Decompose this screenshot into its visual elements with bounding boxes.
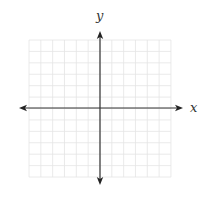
y-axis-label: y xyxy=(95,8,104,23)
coordinate-plane: x y xyxy=(0,0,209,198)
x-axis-label: x xyxy=(190,100,198,115)
axes xyxy=(19,31,183,185)
